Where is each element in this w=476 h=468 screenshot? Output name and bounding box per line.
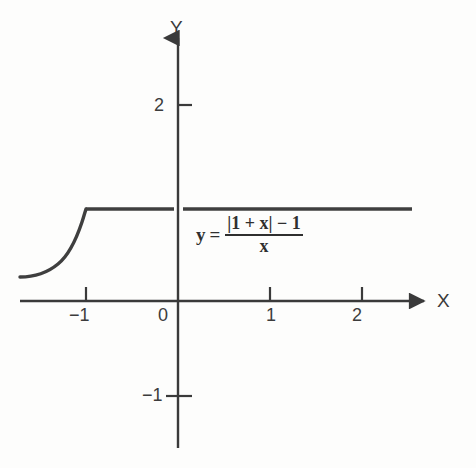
equation-fraction: |1 + x| − 1 x xyxy=(225,214,302,256)
curve-left-branch xyxy=(20,209,86,277)
equation-lhs: y xyxy=(196,224,210,246)
y-tick-label-2: 2 xyxy=(154,96,164,114)
x-tick-label-2: 2 xyxy=(352,306,362,324)
equation-annotation: y = |1 + x| − 1 x xyxy=(196,214,303,256)
y-tick-label-minus1: −1 xyxy=(142,386,163,404)
x-axis-label: X xyxy=(437,291,450,310)
origin-label: 0 xyxy=(158,306,168,324)
y-axis-label: Y xyxy=(170,18,183,37)
equation-equals-sign: = xyxy=(210,224,226,246)
equation-denominator: x xyxy=(260,236,269,256)
graph-figure: Y X −1 0 1 2 2 −1 y = |1 + x| − 1 x xyxy=(0,0,476,468)
equation-numerator: |1 + x| − 1 xyxy=(225,214,302,234)
x-tick-label-1: 1 xyxy=(266,306,276,324)
x-tick-label-minus1: −1 xyxy=(69,306,90,324)
